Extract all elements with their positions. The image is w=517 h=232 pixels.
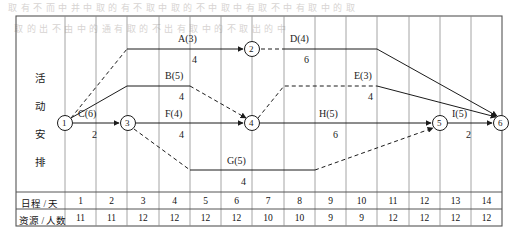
table-cell-day: 12: [409, 196, 440, 206]
table-cell-resource: 11: [96, 213, 127, 223]
node-label-6: 6: [498, 119, 503, 128]
table-cell-resource: 12: [127, 213, 159, 223]
table-cell-day: 10: [346, 196, 377, 206]
table-cell-day: 11: [377, 196, 409, 206]
activity-resource-c: 2: [92, 130, 97, 140]
side-title-char-1: 动: [33, 98, 47, 113]
node-label-2: 2: [249, 45, 254, 54]
table-cell-resource: 9: [346, 213, 377, 223]
table-cell-day: 8: [284, 196, 315, 206]
table-cell-resource: 12: [471, 213, 502, 223]
table-cell-day: 13: [440, 196, 471, 206]
table-cell-resource: 10: [284, 213, 315, 223]
table-cell-day: 14: [471, 196, 502, 206]
node-label-4: 4: [249, 119, 254, 128]
activity-label-e: E(3): [354, 71, 372, 81]
side-title-char-2: 安: [33, 126, 47, 141]
table-cell-resource: 9: [315, 213, 346, 223]
activity-label-i: I(5): [452, 109, 467, 119]
table-cell-day: 4: [159, 196, 190, 206]
activity-resource-d: 6: [304, 55, 309, 65]
table-cell-day: 7: [252, 196, 284, 206]
activity-resource-g: 4: [241, 177, 246, 187]
side-title-char-0: 活: [33, 70, 47, 85]
activity-resource-a: 4: [192, 55, 197, 65]
table-cell-resource: 12: [440, 213, 471, 223]
path-b-link: [190, 86, 246, 118]
node-label-3: 3: [125, 119, 130, 128]
activity-label-g: G(5): [227, 156, 246, 166]
table-cell-resource: 12: [159, 213, 190, 223]
activity-label-d: D(4): [290, 34, 309, 44]
table-cell-day: 9: [315, 196, 346, 206]
network-diagram-figure: 取 有 不 而 中 并 中 取 的 有 不 取 中 取 的 不 中 取 中 有 …: [0, 0, 517, 232]
table-cell-resource: 12: [190, 213, 221, 223]
table-cell-resource: 10: [252, 213, 284, 223]
table-cell-day: 1: [65, 196, 96, 206]
path-d-bar: [284, 49, 497, 116]
activity-resource-e: 4: [368, 92, 373, 102]
table-cell-day: 5: [190, 196, 221, 206]
table-cell-resource: 11: [65, 213, 96, 223]
activity-resource-i: 2: [466, 130, 471, 140]
activity-resource-f: 4: [179, 130, 184, 140]
activity-label-b: B(5): [165, 71, 183, 81]
table-cell-resource: 12: [221, 213, 252, 223]
table-row-header-days: 日程 / 天: [21, 196, 58, 210]
table-cell-day: 6: [221, 196, 252, 206]
activity-resource-h: 6: [333, 130, 338, 140]
table-cell-day: 3: [127, 196, 159, 206]
path-e-lead: [258, 86, 377, 118]
table-row-header-resource: 资源 / 人数: [19, 213, 66, 227]
path-e-bar: [377, 86, 496, 117]
table-cell-resource: 12: [377, 213, 409, 223]
node-label-5: 5: [437, 119, 442, 128]
activity-label-f: F(4): [165, 109, 182, 119]
activity-label-a: A(3): [178, 34, 197, 44]
table-cell-resource: 12: [409, 213, 440, 223]
table-cell-day: 2: [96, 196, 127, 206]
node-label-1: 1: [62, 119, 67, 128]
activity-label-c: C(6): [78, 109, 96, 119]
side-title-char-3: 排: [33, 154, 47, 169]
activity-resource-b: 4: [179, 92, 184, 102]
activity-label-h: H(5): [319, 109, 338, 119]
